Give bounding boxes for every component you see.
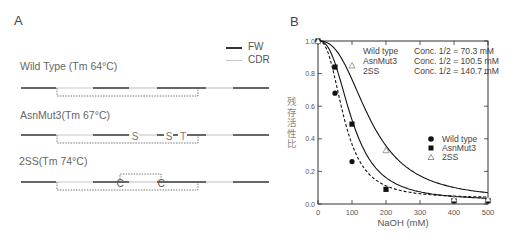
half-concentration-annotations: Wild type Conc. 1/2 = 70.3 mM AsnMut3 Co… xyxy=(363,46,499,76)
svg-text:Wild type: Wild type xyxy=(363,46,399,56)
legend-square-icon xyxy=(429,146,434,151)
svg-text:300: 300 xyxy=(414,208,427,217)
legend-circle-icon xyxy=(428,136,434,142)
svg-text:0.2: 0.2 xyxy=(305,168,315,175)
svg-text:500: 500 xyxy=(482,208,495,217)
x-axis-label: NaOH (mM) xyxy=(377,217,428,228)
svg-text:0: 0 xyxy=(316,208,320,217)
svg-text:200: 200 xyxy=(380,208,393,217)
svg-text:AsnMut3: AsnMut3 xyxy=(363,56,397,66)
svg-text:0.4: 0.4 xyxy=(305,135,315,142)
svg-text:Conc. 1/2 = 70.3 mM: Conc. 1/2 = 70.3 mM xyxy=(414,46,494,56)
svg-text:Conc. 1/2 = 100.5 mM: Conc. 1/2 = 100.5 mM xyxy=(414,56,499,66)
svg-text:2SS: 2SS xyxy=(363,66,380,76)
svg-text:0.8: 0.8 xyxy=(305,70,315,77)
svg-text:Conc. 1/2 = 140.7 mM: Conc. 1/2 = 140.7 mM xyxy=(414,66,499,76)
legend-triangle-icon xyxy=(428,155,434,160)
svg-text:1.0: 1.0 xyxy=(305,38,315,45)
svg-text:100: 100 xyxy=(346,208,359,217)
svg-text:400: 400 xyxy=(448,208,461,217)
svg-text:0.6: 0.6 xyxy=(305,103,315,110)
chart-legend: Wild type AsnMut3 2SS xyxy=(428,134,478,162)
svg-text:0.0: 0.0 xyxy=(305,201,315,208)
svg-text:2SS: 2SS xyxy=(442,152,459,162)
residual-activity-chart: 0100200300400500 0.00.20.40.60.81.0 Wild… xyxy=(0,0,516,242)
